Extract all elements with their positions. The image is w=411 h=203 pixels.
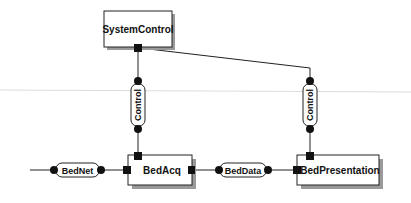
role-dot-icon bbox=[264, 166, 272, 174]
role-dot-icon bbox=[306, 125, 314, 133]
role-dot-icon bbox=[134, 77, 142, 85]
port-square-icon bbox=[306, 152, 314, 160]
role-dot-icon bbox=[50, 166, 58, 174]
architecture-diagram: SystemControl Control Control BedNet Bed… bbox=[0, 0, 411, 203]
connector-label: Control bbox=[305, 89, 315, 121]
role-dot-icon bbox=[97, 166, 105, 174]
connector-label: BedData bbox=[225, 166, 263, 176]
connector-label: Control bbox=[133, 89, 143, 121]
port-square-icon bbox=[134, 152, 142, 160]
port-square-icon bbox=[188, 166, 195, 174]
connector-control-left[interactable]: Control bbox=[131, 77, 145, 133]
connector-control-right[interactable]: Control bbox=[303, 77, 317, 133]
role-dot-icon bbox=[134, 125, 142, 133]
component-bed-presentation[interactable]: BedPresentation bbox=[293, 152, 383, 189]
port-square-icon bbox=[134, 44, 142, 52]
connector-label: BedNet bbox=[62, 166, 94, 176]
port-square-icon bbox=[293, 166, 301, 174]
component-system-control[interactable]: SystemControl bbox=[102, 11, 175, 52]
component-label: BedAcq bbox=[143, 165, 181, 176]
guide-line bbox=[0, 90, 411, 92]
connector-bed-net[interactable]: BedNet bbox=[50, 163, 105, 177]
role-dot-icon bbox=[215, 166, 223, 174]
component-bed-acq[interactable]: BedAcq bbox=[123, 152, 196, 189]
port-square-icon bbox=[123, 166, 131, 174]
wires bbox=[30, 48, 310, 170]
wire-sysctl-control-right bbox=[140, 48, 310, 79]
component-label: BedPresentation bbox=[300, 165, 379, 176]
component-label: SystemControl bbox=[102, 24, 173, 35]
role-dot-icon bbox=[306, 77, 314, 85]
connector-bed-data[interactable]: BedData bbox=[215, 163, 272, 177]
